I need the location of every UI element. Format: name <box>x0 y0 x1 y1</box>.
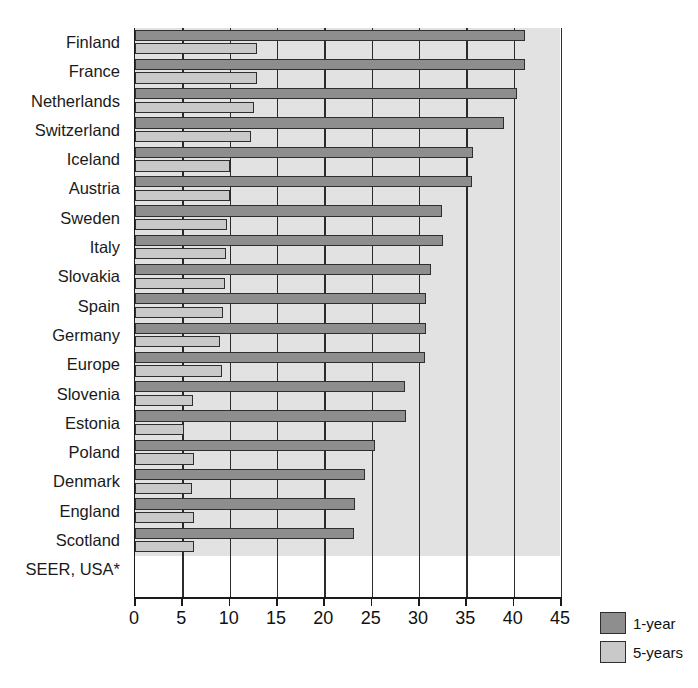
category-label: Slovakia <box>0 262 128 291</box>
category-label: Austria <box>0 174 128 203</box>
x-tick <box>276 597 278 606</box>
bar-5-years <box>135 336 220 347</box>
bar-group <box>135 87 560 116</box>
x-tick-label: 10 <box>219 608 239 629</box>
category-label: Finland <box>0 28 128 57</box>
bar-1-year <box>135 352 425 363</box>
category-label: Netherlands <box>0 87 128 116</box>
bar-1-year <box>135 176 472 187</box>
bar-group <box>135 292 560 321</box>
x-tick-label: 40 <box>503 608 523 629</box>
plot-base-strip <box>135 556 560 598</box>
category-label: Denmark <box>0 467 128 496</box>
chart-legend: 1-year5-years <box>600 612 696 670</box>
bar-5-years <box>135 131 251 142</box>
category-label: Spain <box>0 292 128 321</box>
bar-1-year <box>135 88 517 99</box>
x-tick-label: 15 <box>266 608 286 629</box>
bar-5-years <box>135 248 226 259</box>
bar-group <box>135 526 560 555</box>
bar-group <box>135 116 560 145</box>
category-label: Iceland <box>0 145 128 174</box>
bar-group <box>135 438 560 467</box>
gridline <box>182 556 183 598</box>
bar-5-years <box>135 278 225 289</box>
x-axis-tick-labels: 051015202530354045 <box>0 608 698 634</box>
category-label: Italy <box>0 233 128 262</box>
x-tick-label: 35 <box>455 608 475 629</box>
x-tick-label: 45 <box>550 608 570 629</box>
category-label: Estonia <box>0 409 128 438</box>
bar-series-container <box>135 28 560 598</box>
bar-group <box>135 468 560 497</box>
legend-swatch-icon <box>600 641 626 663</box>
bar-1-year <box>135 528 354 539</box>
legend-item: 5-years <box>600 641 696 663</box>
x-tick <box>560 597 562 606</box>
bar-1-year <box>135 381 405 392</box>
category-label: England <box>0 497 128 526</box>
x-tick-label: 0 <box>129 608 139 629</box>
bar-1-year <box>135 59 525 70</box>
gridline <box>466 556 467 598</box>
bar-group <box>135 28 560 57</box>
bar-1-year <box>135 440 375 451</box>
bar-5-years <box>135 72 257 83</box>
category-label: Slovenia <box>0 380 128 409</box>
bar-5-years <box>135 43 257 54</box>
bar-group <box>135 233 560 262</box>
category-label: Poland <box>0 438 128 467</box>
bar-5-years <box>135 190 230 201</box>
legend-item: 1-year <box>600 612 696 634</box>
x-tick-label: 25 <box>361 608 381 629</box>
category-label: Switzerland <box>0 116 128 145</box>
bar-group <box>135 497 560 526</box>
bar-5-years <box>135 395 193 406</box>
x-tick-label: 30 <box>408 608 428 629</box>
x-axis-ticks <box>134 597 561 606</box>
bar-group <box>135 204 560 233</box>
legend-label: 1-year <box>633 615 676 632</box>
bar-group <box>135 321 560 350</box>
gridline <box>277 556 278 598</box>
bar-group <box>135 57 560 86</box>
bar-1-year <box>135 469 365 480</box>
plot-area <box>134 28 560 598</box>
bar-1-year <box>135 323 426 334</box>
category-label: France <box>0 57 128 86</box>
bar-group <box>135 262 560 291</box>
bar-1-year <box>135 30 525 41</box>
bar-5-years <box>135 453 194 464</box>
gridline <box>561 28 562 598</box>
gridline <box>419 556 420 598</box>
x-tick <box>134 597 136 606</box>
bar-1-year <box>135 147 473 158</box>
x-tick <box>323 597 325 606</box>
bar-chart: FinlandFranceNetherlandsSwitzerlandIcela… <box>0 0 698 688</box>
bar-1-year <box>135 293 426 304</box>
bar-group <box>135 350 560 379</box>
bar-group <box>135 145 560 174</box>
x-tick <box>513 597 515 606</box>
category-label: Germany <box>0 321 128 350</box>
bar-5-years <box>135 160 230 171</box>
gridline <box>514 556 515 598</box>
x-tick <box>465 597 467 606</box>
x-tick-label: 5 <box>176 608 186 629</box>
bar-1-year <box>135 205 442 216</box>
bar-group <box>135 175 560 204</box>
bar-1-year <box>135 264 431 275</box>
bar-5-years <box>135 424 184 435</box>
x-tick <box>181 597 183 606</box>
gridline <box>372 556 373 598</box>
bar-group <box>135 380 560 409</box>
x-tick <box>371 597 373 606</box>
bar-5-years <box>135 512 194 523</box>
category-label: Europe <box>0 350 128 379</box>
bar-5-years <box>135 541 194 552</box>
x-tick <box>418 597 420 606</box>
x-tick-label: 20 <box>313 608 333 629</box>
bar-5-years <box>135 102 254 113</box>
gridline <box>324 556 325 598</box>
bar-5-years <box>135 365 222 376</box>
